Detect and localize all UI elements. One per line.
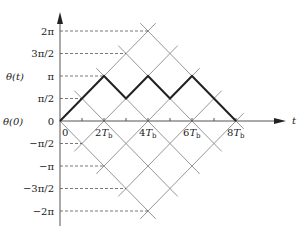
y-tick-label: π/2 [38, 93, 54, 104]
x-tick-label: 4Tb [139, 127, 157, 140]
axes [57, 12, 286, 226]
x-tick-label: 2Tb [95, 127, 113, 140]
y-axis-label: θ(t) [6, 71, 24, 82]
y-tick-label: −π/2 [29, 138, 54, 149]
x-tick-labels: 02Tb4Tb6Tb8Tb [62, 127, 245, 140]
y-tick-label: −3π/2 [23, 183, 54, 194]
x-tick-label: 0 [62, 127, 68, 138]
x-tick-label: 6Tb [183, 127, 201, 140]
x-tick-label: 8Tb [227, 127, 245, 140]
x-axis-arrow-icon [274, 118, 286, 124]
y-tick-label: 0 [48, 116, 54, 127]
y-axis-arrow-icon [57, 12, 63, 24]
origin-label: θ(0) [3, 116, 23, 127]
y-tick-label: 3π/2 [31, 48, 54, 59]
highlighted-phase-path [60, 76, 236, 121]
x-axis-label: t [292, 115, 297, 126]
y-tick-label: −π [39, 161, 54, 172]
y-tick-label: π [47, 71, 54, 82]
y-tick-label: −2π [33, 206, 55, 217]
phase-trellis-diagram: θ(t) θ(0) t 2π3π/2ππ/20−π/2−π−3π/2−2π 02… [0, 0, 308, 237]
y-tick-labels: 2π3π/2ππ/20−π/2−π−3π/2−2π [23, 26, 54, 217]
y-tick-label: 2π [41, 26, 54, 37]
